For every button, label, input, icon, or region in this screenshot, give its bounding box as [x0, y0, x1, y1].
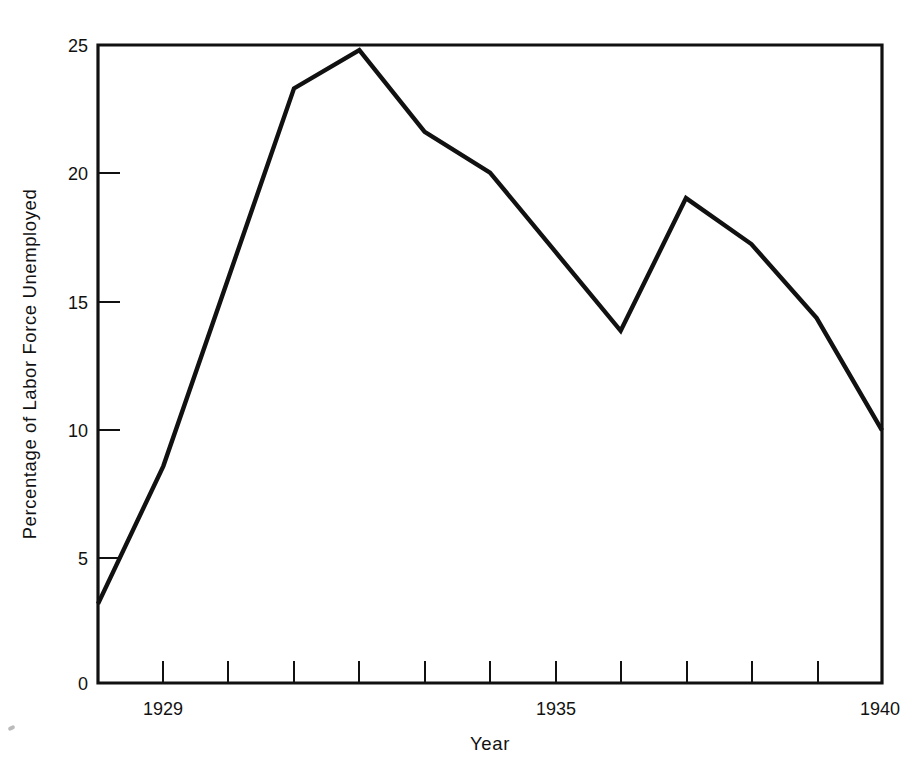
y-tick-label-10: 10	[68, 421, 88, 441]
x-axis-title: Year	[470, 733, 510, 754]
y-tick-label-15: 15	[68, 293, 88, 313]
y-tick-label-5: 5	[78, 549, 88, 569]
x-tick-label-1935: 1935	[536, 699, 576, 719]
y-tick-label-0: 0	[78, 674, 88, 694]
y-axis-title: Percentage of Labor Force Unemployed	[19, 189, 40, 540]
chart-background	[0, 0, 913, 767]
unemployment-line-chart: 25 20 15 10 5 0 1929 1935 1940	[0, 0, 913, 767]
y-tick-label-20: 20	[68, 164, 88, 184]
x-tick-label-1929: 1929	[143, 699, 183, 719]
chart-figure: 25 20 15 10 5 0 1929 1935 1940	[0, 0, 913, 767]
y-tick-label-25: 25	[68, 36, 88, 56]
x-tick-label-1940: 1940	[860, 699, 900, 719]
